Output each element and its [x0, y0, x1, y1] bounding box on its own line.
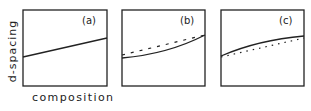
panel-a-solid-line [23, 38, 107, 57]
panel-a-label: (a) [82, 15, 96, 26]
panel-c: (c) [221, 10, 304, 86]
panel-a: (a) [23, 10, 107, 86]
panel-c-label: (c) [279, 15, 292, 26]
panel-c-dotted-line [221, 38, 304, 57]
panel-b: (b) [122, 10, 205, 86]
diagram-canvas: (a) (b) (c) [0, 0, 311, 111]
panel-b-label: (b) [180, 15, 194, 26]
panel-b-dashed-line [122, 35, 205, 55]
panel-c-solid-curve [221, 36, 304, 56]
